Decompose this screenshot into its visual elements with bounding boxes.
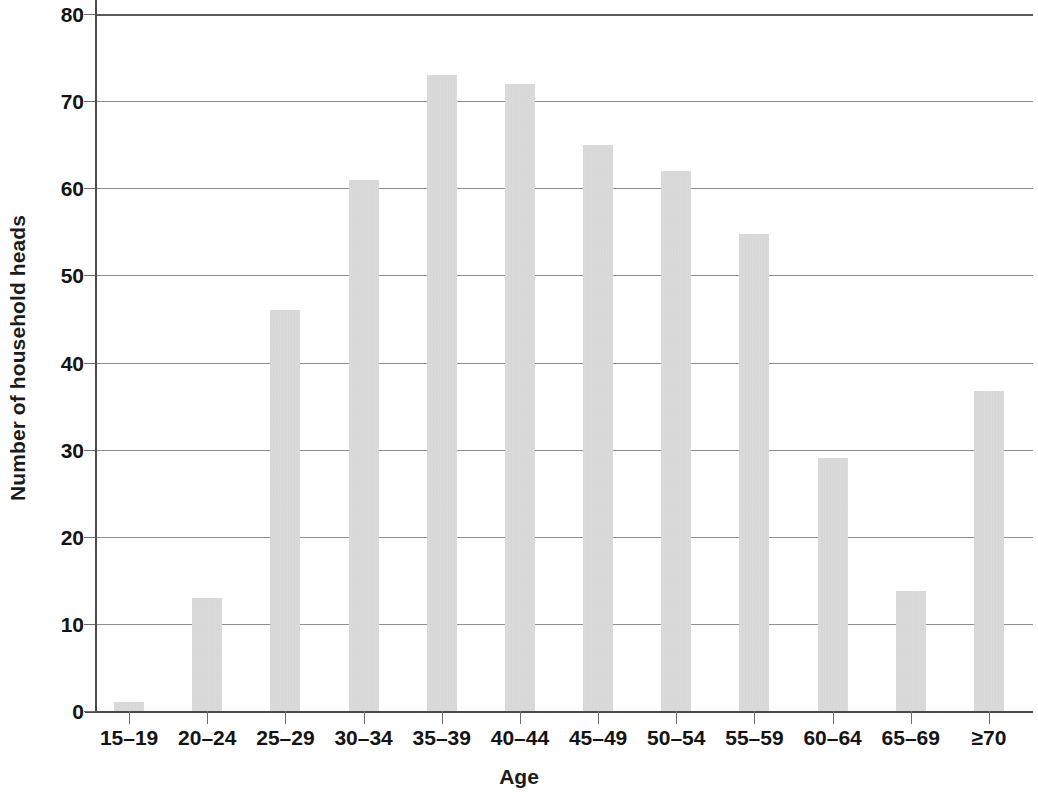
- y-axis-tick-mark: [84, 624, 95, 625]
- y-axis-tick-label: 0: [36, 700, 84, 724]
- x-axis-tick-label: 15–19: [100, 726, 158, 750]
- x-axis-tick-label: 20–24: [178, 726, 236, 750]
- bar: [114, 702, 144, 711]
- bar: [739, 234, 769, 711]
- y-axis-tick-mark: [84, 188, 95, 189]
- x-axis-tick-mark: [520, 711, 521, 724]
- x-axis-tick-mark: [129, 711, 130, 724]
- y-axis-tick-mark: [84, 363, 95, 364]
- bar-chart-figure: Number of household heads 01020304050607…: [0, 0, 1038, 802]
- y-axis-tick-label: 30: [36, 439, 84, 463]
- y-axis-title: Number of household heads: [0, 0, 36, 715]
- y-axis-tick-label: 60: [36, 177, 84, 201]
- x-axis-tick-mark: [911, 711, 912, 724]
- y-axis-tick-label: 50: [36, 264, 84, 288]
- bar: [427, 75, 457, 711]
- y-axis-tick-label: 40: [36, 352, 84, 376]
- x-axis-tick-label: 65–69: [882, 726, 940, 750]
- x-axis-tick-labels: 15–1920–2425–2930–3435–3940–4445–4950–54…: [95, 726, 1033, 760]
- bar: [974, 391, 1004, 711]
- x-axis-tick-mark: [989, 711, 990, 724]
- x-axis-tick-mark: [207, 711, 208, 724]
- x-axis-tick-mark: [676, 711, 677, 724]
- bar: [349, 180, 379, 711]
- bars-group: [95, 14, 1033, 712]
- x-axis-tick-label: 30–34: [334, 726, 392, 750]
- bar: [505, 84, 535, 711]
- y-axis-tick-mark: [84, 275, 95, 276]
- x-axis-tick-label: 40–44: [491, 726, 549, 750]
- y-axis-title-text: Number of household heads: [6, 214, 30, 500]
- y-axis-tick-mark: [84, 711, 95, 712]
- x-axis-tick-label: 45–49: [569, 726, 627, 750]
- x-axis-tick-label: 35–39: [413, 726, 471, 750]
- x-axis-tick-mark: [833, 711, 834, 724]
- y-axis-tick-label: 10: [36, 613, 84, 637]
- bar: [270, 310, 300, 711]
- x-axis-tick-label: 55–59: [725, 726, 783, 750]
- x-axis-title: Age: [0, 765, 1038, 789]
- plot-area: [95, 14, 1033, 712]
- x-axis-tick-marks: [95, 711, 1033, 725]
- x-axis-tick-label: 50–54: [647, 726, 705, 750]
- y-axis-tick-mark: [84, 101, 95, 102]
- x-axis-tick-mark: [285, 711, 286, 724]
- bar: [583, 145, 613, 711]
- y-axis-tick-mark: [84, 450, 95, 451]
- y-axis-tick-labels: 01020304050607080: [36, 0, 84, 740]
- x-axis-tick-mark: [754, 711, 755, 724]
- x-axis-tick-label: ≥70: [971, 726, 1006, 750]
- x-axis-tick-mark: [364, 711, 365, 724]
- x-axis-tick-mark: [442, 711, 443, 724]
- bar: [896, 591, 926, 711]
- y-axis-tick-label: 20: [36, 526, 84, 550]
- bar: [818, 458, 848, 711]
- bar: [192, 598, 222, 711]
- bar: [661, 171, 691, 711]
- x-axis-tick-label: 60–64: [803, 726, 861, 750]
- x-axis-tick-mark: [598, 711, 599, 724]
- y-axis-tick-mark: [84, 14, 95, 15]
- y-axis-tick-label: 70: [36, 90, 84, 114]
- y-axis-tick-mark: [84, 537, 95, 538]
- y-axis-tick-label: 80: [36, 3, 84, 27]
- x-axis-tick-label: 25–29: [256, 726, 314, 750]
